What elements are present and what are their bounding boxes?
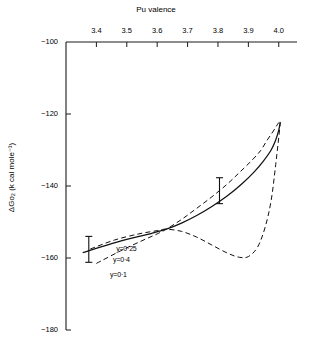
x-tick-label: 3.7	[174, 26, 202, 35]
curve-dashed	[90, 123, 280, 258]
curve-solid	[83, 122, 281, 253]
curve-annotation: y=0·25	[116, 245, 136, 252]
y-tick-label: −100	[24, 37, 58, 46]
y-tick-label: −180	[24, 325, 58, 334]
y-tick-label: −140	[24, 181, 58, 190]
x-tick-label: 4.0	[265, 26, 293, 35]
curve-annotation: y=0·1	[110, 271, 127, 278]
x-tick-label: 3.5	[113, 26, 141, 35]
plot-area	[0, 0, 312, 355]
x-tick-label: 3.6	[143, 26, 171, 35]
y-tick-label: −120	[24, 109, 58, 118]
x-tick-label: 3.9	[234, 26, 262, 35]
figure: Pu valence ΔGo₂ (k cal mole⁻¹) 3.43.53.6…	[0, 0, 312, 355]
y-tick-label: −160	[24, 253, 58, 262]
x-tick-label: 3.8	[204, 26, 232, 35]
x-tick-label: 3.4	[82, 26, 110, 35]
curve-dashed	[96, 120, 280, 263]
curve-annotation: y=0·4	[113, 256, 130, 263]
